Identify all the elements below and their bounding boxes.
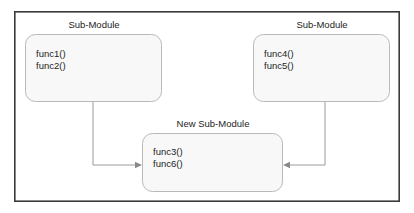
module-right-function-1: func4() [264,48,294,59]
module-new-function-1: func3() [153,146,183,157]
module-left-caption: Sub-Module [68,19,119,30]
module-new-function-2: func6() [153,158,183,169]
module-left-function-2: func2() [36,60,66,71]
module-right-function-2: func5() [264,60,294,71]
diagram-canvas: Sub-Module func1() func2() Sub-Module fu… [0,0,414,213]
module-right-caption: Sub-Module [296,19,347,30]
module-new-caption: New Sub-Module [177,118,250,129]
module-diagram: Sub-Module func1() func2() Sub-Module fu… [0,0,414,213]
module-left-function-1: func1() [36,48,66,59]
